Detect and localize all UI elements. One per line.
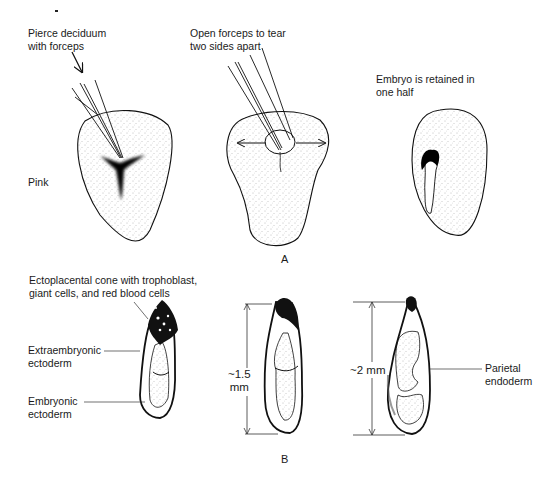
parietal-endoderm-label: Parietalendoderm: [485, 362, 532, 387]
pink-label: Pink: [28, 176, 48, 189]
parietal-line1: Parietal: [485, 362, 521, 374]
diagram-artwork: [0, 0, 557, 479]
egg-cylinder-small: [140, 300, 178, 418]
step1-caption: Pierce deciduumwith forceps: [28, 27, 106, 52]
extraembryonic-line2: ectoderm: [28, 357, 72, 369]
step3-caption: Embryo is retained inone half: [376, 73, 475, 98]
parietal-line2: endoderm: [485, 375, 532, 387]
ectoplacental-line1: Ectoplacental cone with trophoblast,: [29, 274, 197, 286]
panel-b-label: B: [281, 453, 288, 465]
right-measurement: ~2 mm: [350, 364, 385, 377]
measurement-1-5-line2: mm: [230, 381, 249, 393]
ectoplacental-cone-label: Ectoplacental cone with trophoblast,gian…: [29, 274, 197, 299]
deciduum-opened-shape: [227, 112, 329, 246]
embryonic-ectoderm-label: Embryonicectoderm: [28, 395, 78, 420]
measurement-1-5-line1: ~1.5: [228, 368, 251, 380]
step2-caption-line2: two sides apart: [190, 40, 261, 52]
stray-mark: [55, 10, 58, 12]
extraembryonic-line1: Extraembryonic: [28, 344, 101, 356]
pierce-arrow: [72, 52, 82, 72]
panel-a-label: A: [281, 253, 288, 265]
step1-caption-line2: with forceps: [28, 40, 84, 52]
deciduum-half-shape: [412, 109, 487, 235]
ectoplacental-line2: giant cells, and red blood cells: [29, 287, 170, 299]
egg-cylinder-medium: [265, 298, 303, 433]
middle-measurement: ~1.5mm: [228, 368, 251, 394]
step1-caption-line1: Pierce deciduum: [28, 27, 106, 39]
step3-caption-line2: one half: [376, 86, 413, 98]
embryonic-line2: ectoderm: [28, 408, 72, 420]
ectoplacental-leader-line: [134, 302, 148, 319]
egg-cylinder-large: [388, 296, 430, 434]
step3-caption-line1: Embryo is retained in: [376, 73, 475, 85]
step2-caption-line1: Open forceps to tear: [190, 27, 286, 39]
embryonic-line1: Embryonic: [28, 395, 78, 407]
step2-caption: Open forceps to teartwo sides apart: [190, 27, 286, 52]
deciduum-whole-shape: [78, 110, 172, 241]
extraembryonic-ectoderm-label: Extraembryonicectoderm: [28, 344, 101, 369]
